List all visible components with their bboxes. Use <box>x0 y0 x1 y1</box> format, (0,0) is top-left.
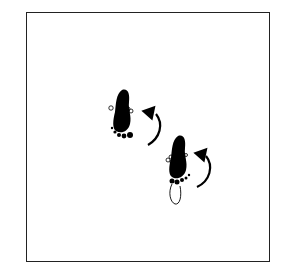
rotation-arrow-icon <box>141 106 160 145</box>
footprint-icon <box>166 136 190 204</box>
rotation-arrow-icon <box>193 148 212 187</box>
dance-step-diagram <box>0 0 285 273</box>
footprint-icon <box>109 90 133 139</box>
